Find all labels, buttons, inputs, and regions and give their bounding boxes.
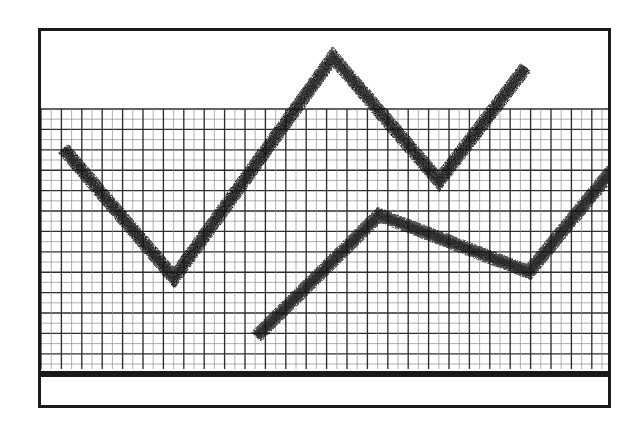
plot-area — [41, 31, 608, 405]
chart-frame — [38, 28, 611, 408]
data-line-lower-trace — [256, 168, 608, 337]
data-line-lower-trace-core — [256, 168, 608, 337]
screenshot-canvas — [0, 0, 642, 425]
data-lines-layer — [41, 31, 608, 405]
